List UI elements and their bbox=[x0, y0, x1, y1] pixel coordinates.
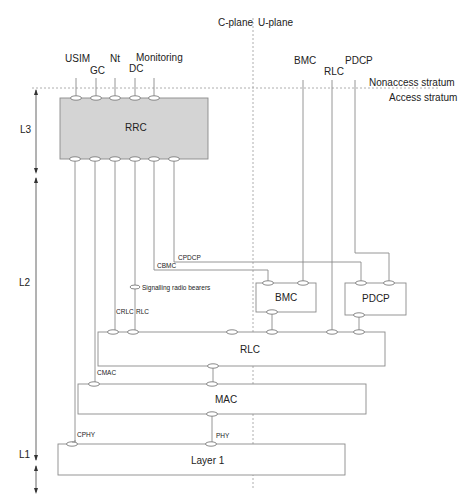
layer-axis bbox=[34, 89, 38, 494]
cmac-label: CMAC bbox=[97, 369, 116, 376]
sap-gc-label: GC bbox=[90, 65, 105, 76]
cpdcp-label: CPDCP bbox=[178, 254, 201, 261]
sap-bmc-label: BMC bbox=[294, 55, 316, 66]
sap-rlc-label: RLC bbox=[324, 66, 344, 77]
access-stratum-label: Access stratum bbox=[389, 92, 457, 103]
sap-usim-label: USIM bbox=[65, 53, 90, 64]
srb-legend-label: Signalling radio bearers bbox=[142, 284, 211, 292]
sap-pdcp-label: PDCP bbox=[345, 55, 373, 66]
cbmc-label: CBMC bbox=[157, 262, 176, 269]
nonaccess-stratum-label: Nonaccess stratum bbox=[369, 77, 455, 88]
layer-l2-label: L2 bbox=[19, 277, 31, 288]
cpdcp-link bbox=[174, 161, 361, 283]
pdcp-label: PDCP bbox=[362, 293, 390, 304]
radio-interface-protocol-diagram: C-plane U-plane Nonaccess stratum Access… bbox=[0, 0, 468, 503]
sap-monitoring-label: Monitoring bbox=[136, 52, 183, 63]
c-plane-label: C-plane bbox=[218, 17, 253, 28]
phy-label: PHY bbox=[216, 432, 230, 439]
layer-l3-label: L3 bbox=[20, 124, 32, 135]
sap-nt-label: Nt bbox=[110, 53, 120, 64]
cphy-label: CPHY bbox=[77, 431, 96, 438]
u-plane-label: U-plane bbox=[258, 17, 293, 28]
rrc-label: RRC bbox=[125, 122, 147, 133]
layer1-label: Layer 1 bbox=[191, 455, 225, 466]
mac-label: MAC bbox=[215, 394, 237, 405]
bmc-label: BMC bbox=[275, 292, 297, 303]
rlc-link-label: RLC bbox=[136, 308, 149, 315]
rlc-label: RLC bbox=[240, 344, 260, 355]
sap-dc-label: DC bbox=[129, 63, 143, 74]
layer-l1-label: L1 bbox=[19, 449, 31, 460]
srb-legend-icon bbox=[130, 285, 140, 289]
crlc-label: CRLC bbox=[116, 308, 134, 315]
